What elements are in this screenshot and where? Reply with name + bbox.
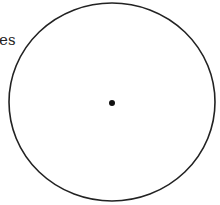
center-point xyxy=(109,100,115,106)
circle-diagram xyxy=(0,0,220,205)
